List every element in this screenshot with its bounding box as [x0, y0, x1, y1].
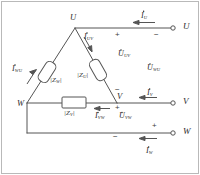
zw-sub: W	[56, 79, 60, 84]
node-label-w: W	[17, 99, 24, 108]
terminal-label-v: V	[183, 97, 189, 106]
ivw-sub: VW	[98, 115, 105, 120]
current-label-iwu: IWU	[12, 65, 22, 73]
voltage-label-uwu: UWU	[147, 64, 160, 72]
terminal-dot-w[interactable]	[171, 131, 175, 135]
current-label-iv: IV	[147, 89, 152, 97]
voltage-label-uvw: UVW	[119, 112, 131, 120]
impedance-label-zv: |ZV|	[64, 110, 75, 117]
polarity-minus-w-left: −	[113, 133, 118, 141]
uvw-sub: VW	[125, 115, 132, 120]
uuv-base: U	[118, 49, 124, 58]
impedance-zv-body	[62, 97, 86, 108]
iwu-sub: WU	[15, 68, 22, 73]
image-border	[2, 2, 199, 174]
arrow-iu-head	[133, 20, 139, 24]
circuit-svg	[0, 0, 200, 175]
polarity-plus-u-left: +	[115, 31, 120, 39]
phasor-dot-group	[14, 10, 151, 147]
polarity-plus-v-below: +	[115, 104, 120, 112]
terminal-dot-v[interactable]	[171, 101, 175, 105]
current-label-iw: IW	[146, 147, 153, 155]
polarity-minus-u-right: −	[154, 31, 159, 39]
zv-sub: V	[70, 112, 73, 117]
current-label-iuv: IUV	[84, 33, 93, 41]
schematic-canvas: U V W U V W |ZW| |ZU| |ZV| IU IV IW IWU …	[0, 0, 200, 175]
node-label-u: U	[70, 13, 76, 22]
zu-sub: U	[83, 74, 86, 79]
iw-sub: W	[149, 150, 153, 155]
current-label-ivw: IVW	[95, 112, 104, 120]
polarity-minus-v-above: −	[115, 86, 120, 94]
uwu-sub: WU	[153, 67, 160, 72]
zu-bar-close: |	[86, 71, 88, 79]
uwu-base: U	[147, 63, 153, 72]
arrow-iwu-head	[30, 70, 37, 75]
iv-sub: V	[150, 92, 153, 97]
impedance-label-zw: |ZW|	[50, 77, 62, 84]
polarity-plus-w-right: +	[152, 122, 157, 130]
voltage-label-uuv: UUV	[118, 50, 130, 58]
terminal-label-w: W	[183, 127, 191, 136]
arrow-ivw-head	[94, 106, 100, 110]
impedance-zu-body	[88, 58, 108, 83]
arrow-iv-head	[139, 95, 145, 99]
uuv-sub: UV	[124, 53, 130, 58]
arrow-iw-head	[139, 136, 145, 140]
uvw-base: U	[119, 111, 125, 120]
iuv-sub: UV	[87, 36, 93, 41]
impedance-label-zu: |ZU|	[77, 72, 88, 79]
current-label-iu: IU	[141, 12, 147, 20]
iu-sub: U	[144, 15, 147, 20]
terminal-dot-u[interactable]	[171, 26, 175, 30]
terminal-label-u: U	[183, 22, 190, 31]
